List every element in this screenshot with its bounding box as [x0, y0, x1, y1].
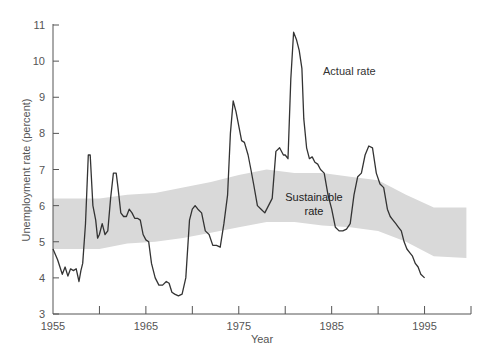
y-tick-label: 11: [34, 19, 45, 31]
y-tick-label: 10: [33, 55, 45, 67]
x-tick-label: 1965: [134, 320, 158, 332]
sustainable-band-shape: [53, 170, 466, 259]
x-axis-title: Year: [251, 333, 274, 345]
x-tick-label: 1975: [227, 320, 251, 332]
y-tick-label: 5: [39, 236, 45, 248]
annotation-actual-rate: Actual rate: [323, 65, 376, 77]
y-axis-title: Unemployment rate (percent): [20, 98, 32, 241]
x-tick-label: 1985: [319, 320, 343, 332]
annotation-sustainable: Sustainable: [285, 191, 343, 203]
x-tick-label: 1955: [41, 320, 65, 332]
annotation-rate: rate: [305, 205, 324, 217]
unemployment-chart: 3456789101119551965197519851995 Year Une…: [0, 0, 494, 360]
x-tick-label: 1995: [412, 320, 436, 332]
y-tick-label: 6: [39, 200, 45, 212]
y-tick-label: 8: [39, 127, 45, 139]
sustainable-rate-band: [53, 170, 466, 259]
y-tick-label: 9: [39, 91, 45, 103]
y-tick-label: 3: [39, 308, 45, 320]
y-tick-label: 7: [39, 164, 45, 176]
y-tick-label: 4: [39, 272, 45, 284]
